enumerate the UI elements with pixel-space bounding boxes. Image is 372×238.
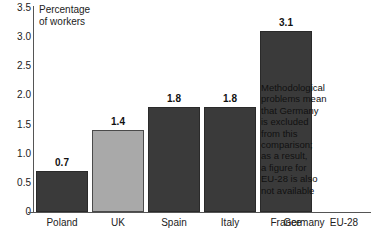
bar-italy — [204, 107, 256, 212]
x-axis-label-eu28: EU-28 — [318, 217, 370, 229]
bar-value-spain: 1.8 — [148, 94, 200, 104]
bar-spain — [148, 107, 200, 212]
bar-poland — [36, 171, 88, 212]
x-axis-label-poland: Poland — [36, 217, 88, 229]
bar-value-poland: 0.7 — [36, 158, 88, 168]
chart-annotation: Methodological problems mean that German… — [261, 82, 369, 196]
bar-uk — [92, 130, 144, 212]
x-axis-line — [28, 212, 371, 213]
x-axis-label-italy: Italy — [204, 217, 256, 229]
bar-value-uk: 1.4 — [92, 117, 144, 127]
x-axis-label-spain: Spain — [148, 217, 200, 229]
bar-value-italy: 1.8 — [204, 94, 256, 104]
x-axis-label-uk: UK — [92, 217, 144, 229]
bar-value-france: 3.1 — [260, 18, 312, 28]
bar-chart: 3.5 3.0 2.5 2.0 1.5 1.0 0.5 0 Percentage… — [0, 0, 372, 238]
